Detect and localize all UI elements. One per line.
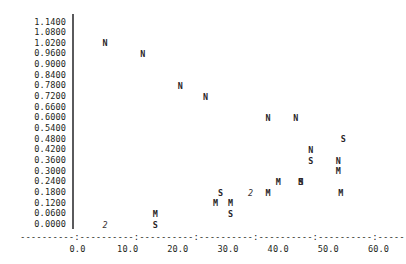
data-marker-m: M: [228, 199, 233, 207]
data-marker-2: 2: [103, 220, 108, 228]
data-marker-n: N: [336, 156, 341, 164]
data-markers-layer: NNNNNNSNSNMSMMS2MMMMMS2S: [0, 0, 406, 264]
data-marker-n: N: [140, 50, 145, 58]
data-marker-2: 2: [248, 188, 253, 196]
data-marker-n: N: [308, 146, 313, 154]
data-marker-n: N: [293, 114, 298, 122]
data-marker-n: N: [266, 114, 271, 122]
data-marker-s: S: [341, 135, 346, 143]
data-marker-m: M: [213, 199, 218, 207]
data-marker-m: M: [276, 178, 281, 186]
data-marker-n: N: [178, 82, 183, 90]
data-marker-m: M: [153, 210, 158, 218]
data-marker-m: M: [266, 188, 271, 196]
data-marker-m: M: [338, 188, 343, 196]
data-marker-m: M: [336, 167, 341, 175]
data-marker-s: S: [308, 156, 313, 164]
data-marker-s: S: [153, 220, 158, 228]
data-marker-s: S: [228, 210, 233, 218]
data-marker-n: N: [203, 92, 208, 100]
data-marker-m: M: [298, 178, 303, 186]
data-marker-s: S: [218, 188, 223, 196]
scatter-plot-figure: 1.14001.08001.02000.96000.90000.84000.78…: [0, 0, 406, 264]
data-marker-n: N: [103, 39, 108, 47]
